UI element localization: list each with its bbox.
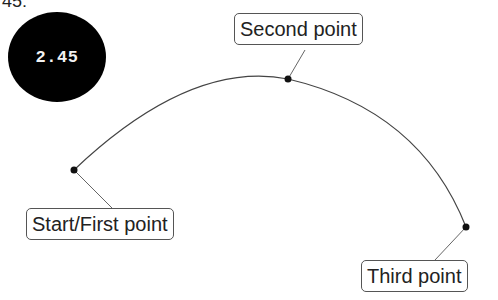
value-badge: 2.45: [8, 12, 106, 102]
label-third-point: Third point: [361, 260, 468, 292]
leader-line-first: [74, 170, 112, 208]
arc-curve: [74, 76, 466, 227]
leader-line-third: [435, 227, 466, 260]
point-third[interactable]: [463, 224, 470, 231]
leader-line-second: [288, 50, 305, 79]
point-second[interactable]: [285, 76, 292, 83]
label-first-point: Start/First point: [26, 208, 174, 240]
label-second-point: Second point: [234, 13, 363, 45]
point-first[interactable]: [71, 167, 78, 174]
badge-value: 2.45: [36, 48, 79, 67]
